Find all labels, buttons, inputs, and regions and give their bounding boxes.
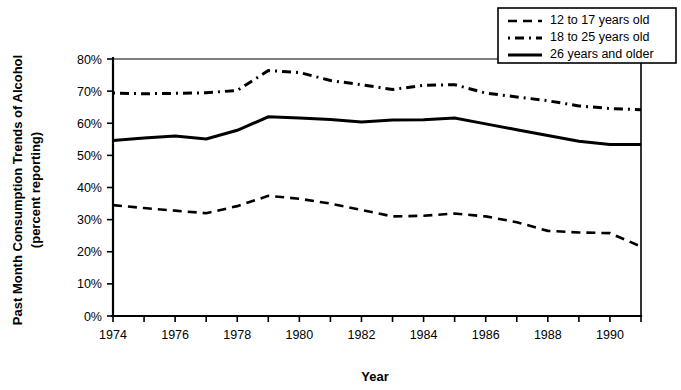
y-tick-label: 40% <box>77 181 102 195</box>
alcohol-consumption-line-chart: 0%10%20%30%40%50%60%70%80% 1974197619781… <box>0 0 681 390</box>
y-tick-label: 70% <box>77 85 102 99</box>
y-axis-title-line1: Past Month Consumption Trends of Alcohol <box>10 55 25 325</box>
data-series-group <box>113 71 641 247</box>
legend-label-3: 26 years and older <box>550 47 654 61</box>
y-axis-ticks: 0%10%20%30%40%50%60%70%80% <box>77 53 113 324</box>
chart-legend[interactable]: 12 to 17 years old18 to 25 years old26 y… <box>498 8 676 63</box>
legend-label-1: 12 to 17 years old <box>550 13 649 27</box>
series-line-2 <box>113 71 641 110</box>
legend-items: 12 to 17 years old18 to 25 years old26 y… <box>508 13 654 61</box>
y-axis-title-line2: (percent reporting) <box>28 132 43 248</box>
y-tick-label: 20% <box>77 245 102 259</box>
y-tick-label: 10% <box>77 277 102 291</box>
series-line-3 <box>113 117 641 145</box>
x-tick-label: 1978 <box>223 328 251 342</box>
series-line-1 <box>113 196 641 247</box>
y-tick-label: 0% <box>84 310 102 324</box>
x-tick-label: 1990 <box>596 328 624 342</box>
x-axis-title: Year <box>361 369 388 384</box>
x-tick-label: 1976 <box>161 328 189 342</box>
x-axis-ticks: 197419761978198019821984198619881990 <box>99 316 641 342</box>
x-tick-label: 1988 <box>534 328 562 342</box>
chart-axes <box>112 58 641 316</box>
x-tick-label: 1974 <box>99 328 127 342</box>
y-tick-label: 60% <box>77 117 102 131</box>
x-tick-label: 1982 <box>348 328 376 342</box>
x-tick-label: 1984 <box>410 328 438 342</box>
y-tick-label: 50% <box>77 149 102 163</box>
y-tick-label: 80% <box>77 53 102 67</box>
legend-label-2: 18 to 25 years old <box>550 30 649 44</box>
chart-page: 0%10%20%30%40%50%60%70%80% 1974197619781… <box>0 0 681 390</box>
y-tick-label: 30% <box>77 213 102 227</box>
x-tick-label: 1980 <box>285 328 313 342</box>
x-tick-label: 1986 <box>472 328 500 342</box>
